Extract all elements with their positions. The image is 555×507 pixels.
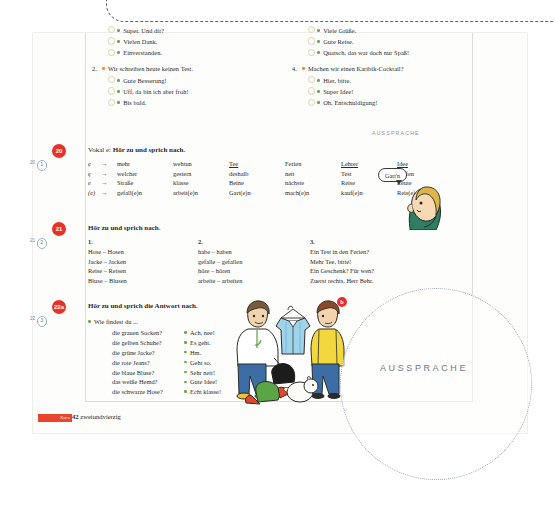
option-checkbox-icon[interactable] bbox=[308, 76, 315, 83]
dialogue-question: die rote Jeans? bbox=[112, 359, 163, 366]
vowel-word: wehtun bbox=[173, 160, 229, 170]
list-item: arbeite – arbeiten bbox=[198, 277, 242, 284]
question-text: Machen wir einen Karibik-Cocktail? bbox=[302, 65, 404, 72]
option-row[interactable]: Einverstanden. bbox=[92, 48, 287, 58]
dialogue-question: die grauen Socken? bbox=[112, 329, 163, 336]
footer-page-info: 42 zweiundvierzig bbox=[72, 413, 121, 420]
vowel-word: mach(e)n bbox=[285, 189, 341, 199]
option-text: Vielen Dank. bbox=[117, 38, 157, 45]
dialogue-intro: Wie findest du ... bbox=[88, 318, 138, 325]
vowel-word: arbeit(e)n bbox=[173, 189, 229, 199]
question-text: Wir schreiben heute keinen Test. bbox=[102, 65, 193, 72]
list-item: Mehr Tee, bitte! bbox=[310, 258, 374, 265]
vowel-word: Tee bbox=[229, 160, 285, 170]
vowel-word: nächste bbox=[285, 179, 341, 189]
dialogue-answer: Geht so. bbox=[184, 359, 221, 366]
option-checkbox-icon[interactable] bbox=[108, 87, 115, 94]
dialogue-answer: Hm. bbox=[184, 349, 221, 356]
option-text: Oh, Entschuldigung! bbox=[317, 99, 377, 106]
vowel-word: Ferien bbox=[285, 160, 341, 170]
option-checkbox-icon[interactable] bbox=[308, 49, 315, 56]
dialogue-question: das weiße Hemd? bbox=[112, 378, 163, 385]
top-exercise-right-column: Viele Grüße. Gute Reise. Quatsch, das wa… bbox=[292, 26, 487, 110]
vowel-word: welcher bbox=[117, 170, 173, 180]
option-text: Quatsch, das war doch nur Spaß! bbox=[317, 49, 409, 56]
column-header: 1. bbox=[88, 238, 127, 245]
exercise-20-title: Hör zu und sprich nach. bbox=[113, 146, 185, 154]
option-text: Super. Und dir? bbox=[117, 27, 164, 34]
option-text: Gute Reise. bbox=[317, 38, 353, 45]
audio-track-21[interactable]: 212 bbox=[30, 238, 47, 249]
vowel-word: Gart(e)n bbox=[229, 189, 285, 199]
dialogue-question: die blaue Bluse? bbox=[112, 369, 163, 376]
audio-track-22[interactable]: 223 bbox=[30, 316, 47, 327]
page-number-word: zweiundvierzig bbox=[80, 413, 121, 420]
option-checkbox-icon[interactable] bbox=[108, 49, 115, 56]
option-checkbox-icon[interactable] bbox=[308, 26, 315, 33]
dialogue-answers: Ach, nee! Es geht. Hm. Geht so. Sehr net… bbox=[184, 329, 221, 398]
option-checkbox-icon[interactable] bbox=[308, 87, 315, 94]
page-number: 42 bbox=[72, 413, 79, 420]
option-row[interactable]: Uff, da bin ich aber froh! bbox=[92, 87, 287, 97]
vowel-symbol: e bbox=[88, 179, 101, 189]
question-number: 2. bbox=[92, 64, 102, 74]
option-text: Hier, bitte. bbox=[317, 77, 351, 84]
exercise-badge-21: 21 bbox=[52, 222, 66, 236]
vowel-symbol: (e) bbox=[88, 189, 101, 199]
illustration-speaking-face bbox=[396, 182, 448, 230]
exercise-badge-20: 20 bbox=[52, 144, 66, 158]
vowel-word: kauf(e)n bbox=[341, 189, 397, 199]
dashed-top-frame bbox=[106, 0, 555, 22]
option-checkbox-icon[interactable] bbox=[108, 37, 115, 44]
illustration-two-people-clothes bbox=[226, 296, 351, 406]
question-row: 4.Machen wir einen Karibik-Cocktail? bbox=[292, 64, 487, 74]
list-item: Hose – Hosen bbox=[88, 248, 127, 255]
option-row[interactable]: Hier, bitte. bbox=[292, 76, 487, 86]
dialogue-answer: Es geht. bbox=[184, 339, 221, 346]
track-number: 21 bbox=[30, 238, 35, 243]
list-item: gefalle – gefallen bbox=[198, 258, 242, 265]
exercise-badge-22a: 22a bbox=[52, 300, 66, 314]
list-item: Ein Geschenk? Für wen? bbox=[310, 267, 374, 274]
option-row[interactable]: Viele Grüße. bbox=[292, 26, 487, 36]
dialogue-question: die gelben Schuhe? bbox=[112, 339, 163, 346]
arrow-icon: → bbox=[101, 179, 117, 189]
pairs-column-1: 1. Hose – Hosen Jacke – Jacken Reise – R… bbox=[88, 238, 127, 286]
option-checkbox-icon[interactable] bbox=[108, 26, 115, 33]
vowel-word: Straße bbox=[117, 179, 173, 189]
section-label-aussprache-big: AUSSPRACHE bbox=[380, 363, 468, 373]
dialogue-questions: die grauen Socken? die gelben Schuhe? di… bbox=[112, 329, 163, 398]
option-row[interactable]: Vielen Dank. bbox=[92, 37, 287, 47]
vowel-word: Beine bbox=[229, 179, 285, 189]
speech-bubble-gartn: Gart'n bbox=[378, 168, 407, 182]
option-text: Bis bald. bbox=[117, 99, 146, 106]
list-item: höre – hören bbox=[198, 267, 242, 274]
option-row[interactable]: Super. Und dir? bbox=[92, 26, 287, 36]
option-row[interactable]: Gute Besserung! bbox=[92, 76, 287, 86]
question-number: 4. bbox=[292, 64, 302, 74]
option-row[interactable]: Gute Reise. bbox=[292, 37, 487, 47]
option-row[interactable]: Super Idee! bbox=[292, 87, 487, 97]
arrow-icon: → bbox=[101, 170, 117, 180]
vowel-word: mehr bbox=[117, 160, 173, 170]
option-row[interactable]: Bis bald. bbox=[92, 98, 287, 108]
option-row[interactable]: Quatsch, das war doch nur Spaß! bbox=[292, 48, 487, 58]
option-text: Viele Grüße. bbox=[317, 27, 356, 34]
vowel-word: klasse bbox=[173, 179, 229, 189]
option-checkbox-icon[interactable] bbox=[308, 99, 315, 106]
option-text: Einverstanden. bbox=[117, 49, 162, 56]
column-header: 2. bbox=[198, 238, 242, 245]
audio-track-20[interactable]: 201 bbox=[30, 160, 47, 171]
dialogue-question: die schwarze Hose? bbox=[112, 388, 163, 395]
option-checkbox-icon[interactable] bbox=[108, 76, 115, 83]
top-exercise-left-column: Super. Und dir? Vielen Dank. Einverstand… bbox=[92, 26, 287, 110]
question-row: 2.Wir schreiben heute keinen Test. bbox=[92, 64, 287, 74]
option-text: Super Idee! bbox=[317, 88, 353, 95]
option-row[interactable]: Oh, Entschuldigung! bbox=[292, 98, 487, 108]
vowel-word: deshalb bbox=[229, 170, 285, 180]
dialogue-answer: Echt klasse! bbox=[184, 388, 221, 395]
cd-disc-icon: 2 bbox=[37, 238, 48, 249]
option-checkbox-icon[interactable] bbox=[308, 37, 315, 44]
marker-badge-b: b bbox=[337, 297, 347, 307]
option-checkbox-icon[interactable] bbox=[108, 99, 115, 106]
